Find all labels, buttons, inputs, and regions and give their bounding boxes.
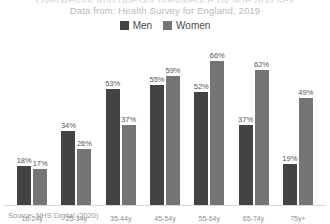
bar-value-label: 59% xyxy=(165,67,180,75)
bar-item[interactable]: 59% xyxy=(166,34,180,206)
chart-container: Overweight and obesity prevalence by age… xyxy=(0,0,330,224)
bar[interactable] xyxy=(239,125,253,206)
bar[interactable] xyxy=(255,70,269,206)
bar[interactable] xyxy=(210,61,224,206)
bar-group: 19%49% xyxy=(276,34,320,206)
bar-item[interactable]: 66% xyxy=(210,34,224,206)
bar-value-label: 34% xyxy=(61,122,76,130)
bar-group: 34%26% xyxy=(54,34,98,206)
bar-item[interactable]: 34% xyxy=(61,34,75,206)
chart-title-clipped: Overweight and obesity prevalence by age… xyxy=(0,0,330,3)
bar-value-label: 66% xyxy=(210,52,225,60)
x-axis-tick-label: 35-44y xyxy=(99,215,143,222)
bar-group: 53%37% xyxy=(99,34,143,206)
bar-item[interactable]: 26% xyxy=(77,34,91,206)
bar-value-label: 19% xyxy=(282,155,297,163)
bar-value-label: 26% xyxy=(77,140,92,148)
x-axis-tick-label: 75y+ xyxy=(276,215,320,222)
bar-item[interactable]: 37% xyxy=(239,34,253,206)
x-axis-tick-label: 45-54y xyxy=(143,215,187,222)
legend-item-men[interactable]: Men xyxy=(120,20,152,31)
bar-value-label: 37% xyxy=(238,116,253,124)
bar[interactable] xyxy=(17,166,31,206)
chart-title-text: Overweight and obesity prevalence by age… xyxy=(0,0,330,3)
bar-value-label: 37% xyxy=(121,116,136,124)
legend-item-women[interactable]: Women xyxy=(163,20,210,31)
x-axis-tick-label: 55-64y xyxy=(187,215,231,222)
bar-group: 18%17% xyxy=(10,34,54,206)
bar-item[interactable]: 18% xyxy=(17,34,31,206)
bar-value-label: 17% xyxy=(33,160,48,168)
bar-item[interactable]: 49% xyxy=(299,34,313,206)
bar-item[interactable]: 62% xyxy=(255,34,269,206)
bar-group: 37%62% xyxy=(231,34,275,206)
legend-swatch-women xyxy=(163,21,172,30)
bar[interactable] xyxy=(77,149,91,206)
bar[interactable] xyxy=(150,85,164,206)
bar[interactable] xyxy=(194,92,208,206)
bar-item[interactable]: 55% xyxy=(150,34,164,206)
legend-swatch-men xyxy=(120,21,129,30)
bar-groups: 18%17%34%26%53%37%55%59%52%66%37%62%19%4… xyxy=(4,34,326,206)
chart-legend: Men Women xyxy=(0,20,330,31)
bar-value-label: 62% xyxy=(254,61,269,69)
bar-value-label: 53% xyxy=(105,80,120,88)
bar[interactable] xyxy=(166,76,180,206)
bar[interactable] xyxy=(106,89,120,206)
bar-item[interactable]: 37% xyxy=(122,34,136,206)
bar[interactable] xyxy=(33,169,47,206)
bar-item[interactable]: 52% xyxy=(194,34,208,206)
chart-subtitle: Data from: Health Survey for England, 20… xyxy=(0,5,330,16)
bar-group: 52%66% xyxy=(187,34,231,206)
bar-value-label: 49% xyxy=(298,89,313,97)
bar-item[interactable]: 19% xyxy=(283,34,297,206)
source-note: Source: NHS Digital (2020) xyxy=(8,211,98,220)
bar-group: 55%59% xyxy=(143,34,187,206)
bar-value-label: 55% xyxy=(149,76,164,84)
legend-label-men: Men xyxy=(133,20,152,31)
x-axis-line xyxy=(4,205,326,206)
bar[interactable] xyxy=(122,125,136,206)
plot-area: 18%17%34%26%53%37%55%59%52%66%37%62%19%4… xyxy=(4,34,326,224)
x-axis-tick-label: 65-74y xyxy=(231,215,275,222)
bar-value-label: 52% xyxy=(194,83,209,91)
bar-item[interactable]: 17% xyxy=(33,34,47,206)
legend-label-women: Women xyxy=(176,20,210,31)
bar-item[interactable]: 53% xyxy=(106,34,120,206)
bar-value-label: 18% xyxy=(17,157,32,165)
bar[interactable] xyxy=(61,131,75,206)
bar[interactable] xyxy=(283,164,297,206)
bar[interactable] xyxy=(299,98,313,206)
